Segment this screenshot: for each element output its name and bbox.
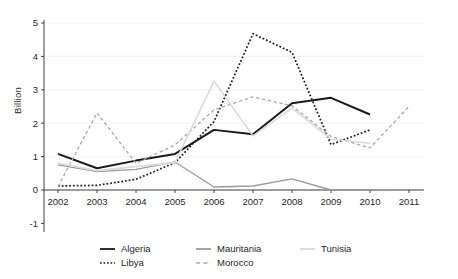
- plot-area: -1012345 2002200320042005200620072008200…: [0, 0, 458, 279]
- chart-legend: AlgeriaLibyaMauritaniaMoroccoTunisia: [100, 243, 352, 268]
- y-tick-label: 5: [33, 17, 38, 28]
- x-tick-label: 2009: [320, 196, 341, 207]
- y-tick-label: 1: [33, 151, 38, 162]
- y-tick-label: 4: [33, 51, 38, 62]
- x-tick-label: 2008: [281, 196, 302, 207]
- chart-figure: Billion -1012345 20022003200420052006200…: [0, 0, 458, 279]
- x-tick-label: 2005: [164, 196, 185, 207]
- x-tick-label: 2003: [86, 196, 107, 207]
- x-tick-label: 2002: [47, 196, 68, 207]
- legend-item-algeria[interactable]: Algeria: [100, 243, 151, 254]
- line-chart-svg: -1012345 2002200320042005200620072008200…: [0, 0, 458, 279]
- legend-item-morocco[interactable]: Morocco: [196, 257, 253, 268]
- x-tick-label: 2010: [359, 196, 380, 207]
- x-axis-ticks-group: 2002200320042005200620072008200920102011: [47, 190, 419, 207]
- y-tick-label: -1: [30, 218, 38, 229]
- x-tick-label: 2004: [125, 196, 146, 207]
- y-tick-label: 3: [33, 84, 38, 95]
- legend-label-mauritania: Mauritania: [217, 243, 262, 254]
- legend-item-mauritania[interactable]: Mauritania: [196, 243, 262, 254]
- x-tick-label: 2011: [399, 196, 419, 207]
- legend-label-tunisia: Tunisia: [321, 243, 352, 254]
- legend-item-tunisia[interactable]: Tunisia: [300, 243, 352, 254]
- legend-label-algeria: Algeria: [121, 243, 151, 254]
- y-axis-ticks-group: -1012345: [30, 17, 44, 228]
- gridlines-group: [48, 23, 424, 190]
- legend-label-morocco: Morocco: [217, 257, 253, 268]
- data-series-group: [58, 34, 409, 190]
- x-tick-label: 2007: [242, 196, 263, 207]
- y-tick-label: 0: [33, 184, 38, 195]
- x-tick-label: 2006: [203, 196, 224, 207]
- legend-label-libya: Libya: [121, 257, 144, 268]
- legend-item-libya[interactable]: Libya: [100, 257, 144, 268]
- y-tick-label: 2: [33, 118, 38, 129]
